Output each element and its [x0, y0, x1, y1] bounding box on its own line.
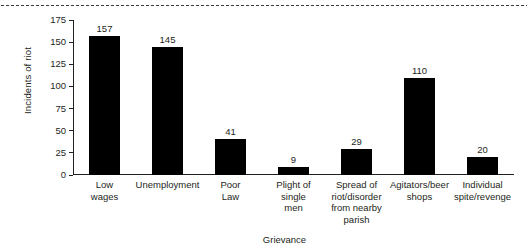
y-tick-mark — [69, 152, 73, 153]
bar-group[interactable]: 41Poor Law — [215, 20, 246, 175]
y-tick-label: 150 — [6, 36, 66, 47]
bar-group[interactable]: 157Low wages — [89, 20, 120, 175]
x-tick-label: Spread of riot/disorder from nearby pari… — [331, 179, 382, 225]
bar-group[interactable]: 20Individual spite/revenge — [467, 20, 498, 175]
bar-group[interactable]: 29Spread of riot/disorder from nearby pa… — [341, 20, 372, 175]
y-tick-label: 0 — [6, 169, 66, 180]
y-tick-label: 125 — [6, 58, 66, 69]
bar-value-label: 41 — [225, 127, 236, 137]
x-tick-label: Poor Law — [220, 179, 240, 202]
plot-area: 0255075100125150175 157Low wages145Unemp… — [73, 20, 514, 175]
bar-value-label: 20 — [477, 145, 488, 155]
bar[interactable] — [215, 139, 246, 175]
y-axis-line — [73, 20, 74, 175]
bar-group[interactable]: 145Unemployment — [152, 20, 183, 175]
y-tick-mark — [69, 42, 73, 43]
bar-value-label: 9 — [291, 155, 296, 165]
y-tick-mark — [69, 20, 73, 21]
y-tick-mark — [69, 175, 73, 176]
y-tick-label: 75 — [6, 103, 66, 114]
y-tick-label: 50 — [6, 125, 66, 136]
bar[interactable] — [152, 47, 183, 175]
bar-group[interactable]: 9Plight of single men — [278, 20, 309, 175]
bar-group[interactable]: 110Agitators/beer shops — [404, 20, 435, 175]
y-tick-label: 175 — [6, 14, 66, 25]
bar[interactable] — [467, 157, 498, 175]
bar[interactable] — [341, 149, 372, 175]
bar-value-label: 145 — [160, 35, 176, 45]
x-tick-label: Plight of single men — [276, 179, 310, 214]
y-tick-mark — [69, 64, 73, 65]
y-tick-mark — [69, 130, 73, 131]
bar[interactable] — [278, 167, 309, 175]
x-tick-label: Unemployment — [136, 179, 200, 191]
y-tick-label: 100 — [6, 80, 66, 91]
y-tick-mark — [69, 86, 73, 87]
bar[interactable] — [404, 78, 435, 175]
bar-value-label: 157 — [97, 24, 113, 34]
bar-value-label: 110 — [412, 66, 427, 76]
x-axis-title: Grievance — [0, 234, 527, 245]
bar-chart-figure: Incidents of riot 0255075100125150175 15… — [0, 0, 527, 251]
x-tick-label: Individual spite/revenge — [454, 179, 511, 202]
bar-value-label: 29 — [351, 137, 362, 147]
y-tick-mark — [69, 108, 73, 109]
x-tick-label: Low wages — [91, 179, 118, 202]
dotted-rule-decoration — [0, 4, 527, 7]
y-tick-label: 25 — [6, 147, 66, 158]
x-tick-label: Agitators/beer shops — [390, 179, 449, 202]
bar[interactable] — [89, 36, 120, 175]
